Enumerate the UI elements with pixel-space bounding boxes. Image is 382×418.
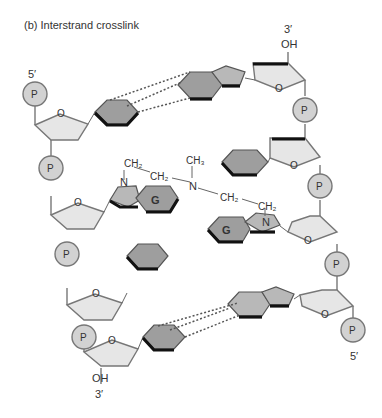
label-right-oh: OH (281, 38, 298, 50)
left-base-3 (122, 244, 168, 303)
right-guanine (208, 213, 288, 242)
label-left-3prime: 3′ (95, 388, 103, 400)
phosphate-label: P (316, 181, 323, 192)
sugar-oxygen-label: O (92, 288, 100, 299)
phosphate-label: P (80, 332, 87, 343)
base-pair-1 (88, 66, 255, 125)
label-right-5prime: 5′ (350, 350, 358, 362)
label-right-3prime: 3′ (284, 23, 292, 35)
crosslinker-ch2-c: CH₂ (220, 192, 238, 203)
crosslinker-ch3: CH₃ (186, 155, 205, 166)
crosslinker-ch2-d: CH₂ (258, 201, 276, 212)
crosslinker-ch2-a: CH₂ (124, 158, 142, 169)
crosslinker-right-n: N (262, 216, 270, 228)
sugar-oxygen-label: O (321, 309, 329, 320)
sugar-oxygen-label: O (108, 335, 116, 346)
sugar-oxygen-label: O (290, 160, 298, 171)
phosphate-label: P (47, 163, 54, 174)
sugar-oxygen-label: O (57, 108, 65, 119)
label-left-5prime: 5′ (28, 68, 36, 80)
sugar-oxygen-label: O (275, 83, 283, 94)
crosslinker-left-n: N (120, 176, 128, 188)
base-pair-4 (138, 287, 300, 350)
left-guanine (104, 186, 178, 212)
phosphate-label: P (333, 259, 340, 270)
label-left-oh: OH (92, 372, 109, 384)
phosphate-label: P (31, 89, 38, 100)
sugar-oxygen-label: O (304, 235, 312, 246)
crosslinker-ch2-b: CH₂ (150, 171, 168, 182)
phosphate-label: P (349, 325, 356, 336)
phosphate-label: P (301, 105, 308, 116)
sugar-oxygen-label: O (74, 197, 82, 208)
guanine-label-left: G (151, 194, 160, 206)
phosphate-label: P (63, 249, 70, 260)
guanine-label-right: G (222, 224, 231, 236)
right-base-2 (222, 150, 270, 175)
crosslinker-center-n: N (189, 180, 197, 192)
interstrand-crosslink-diagram: 5′ 3′ OH OH 3′ 5′ P P P P P P P P O O O … (0, 0, 382, 418)
